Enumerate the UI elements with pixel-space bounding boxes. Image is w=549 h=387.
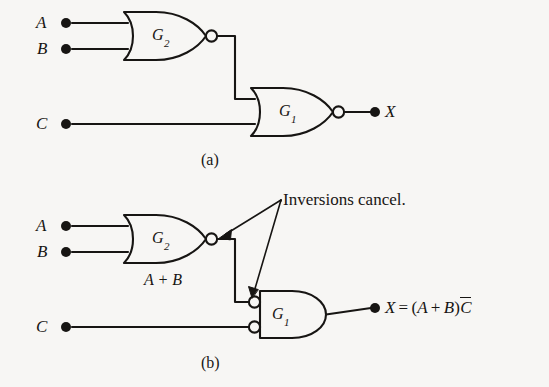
gate-label-g2-subscript-b: 2 <box>164 240 170 252</box>
wire-g2-to-g1-a <box>217 36 255 99</box>
input-label-c-circuit-b: C <box>36 318 47 335</box>
gate-g1-body-b <box>260 291 326 338</box>
output-expression-plus: + <box>428 298 444 317</box>
terminal-dot-a-input-b <box>61 44 71 54</box>
input-label-b-circuit-a: B <box>37 40 47 57</box>
circuit-b-group <box>61 215 380 338</box>
terminal-dot-a-output-x <box>370 107 380 117</box>
annotation-arrowhead-g2-bubble <box>220 230 232 240</box>
terminal-dot-a-input-a <box>61 18 71 28</box>
annotation-inversions-cancel: Inversions cancel. <box>283 191 406 208</box>
gate-label-g2-subscript-a: 2 <box>164 37 170 49</box>
circuit-drawing <box>0 0 549 387</box>
output-expression-term-b: B <box>444 298 455 317</box>
gate-label-g1-subscript-b: 1 <box>284 316 290 328</box>
input-label-b-circuit-b: B <box>37 243 47 260</box>
gate-label-g2-name-a: G <box>152 26 164 43</box>
gate-g2-output-bubble-b <box>206 233 217 244</box>
output-expression-circuit-b: X=(A+B)C <box>385 299 472 316</box>
input-label-a-circuit-b: A <box>36 217 46 234</box>
wire-g2-to-g1-b <box>217 239 249 302</box>
circuit-a-group <box>61 12 380 136</box>
output-label-x-circuit-a: X <box>385 103 395 120</box>
output-expression-equals: = <box>396 298 412 317</box>
gate-label-g1-name-b: G <box>272 305 284 322</box>
annotation-arrows-group <box>220 200 282 298</box>
wire-label-a-plus-b: A + B <box>144 272 182 288</box>
terminal-dot-b-input-a <box>61 221 71 231</box>
gate-label-g2-circuit-a: G2 <box>152 27 169 46</box>
caption-a: (a) <box>201 152 219 168</box>
terminal-dot-b-input-c <box>61 322 71 332</box>
output-expression-term-a: A <box>417 298 428 317</box>
input-label-c-circuit-a: C <box>36 115 47 132</box>
terminal-dot-b-input-b <box>61 247 71 257</box>
input-label-a-circuit-a: A <box>36 14 46 31</box>
output-expression-term-c-bar: C <box>460 299 472 316</box>
gate-g1-output-bubble-a <box>333 106 344 117</box>
gate-label-g2-name-b: G <box>152 229 164 246</box>
output-expression-x: X <box>385 298 396 317</box>
logic-circuit-figure: A B C G2 G1 X (a) A B C G2 G1 A + B Inve… <box>0 0 549 387</box>
gate-label-g1-name-a: G <box>279 102 291 119</box>
gate-g1-input-bubble-bottom-b <box>249 321 260 332</box>
gate-g1-input-bubble-top-b <box>249 296 260 307</box>
gate-label-g2-circuit-b: G2 <box>152 230 169 249</box>
gate-label-g1-circuit-a: G1 <box>279 103 296 122</box>
gate-label-g1-circuit-b: G1 <box>272 306 289 325</box>
caption-b: (b) <box>201 355 220 371</box>
gate-label-g1-subscript-a: 1 <box>291 113 297 125</box>
terminal-dot-a-input-c <box>61 119 71 129</box>
wire-g1-to-output-b <box>326 308 371 315</box>
terminal-dot-b-output-x <box>370 303 380 313</box>
gate-g2-output-bubble-a <box>206 30 217 41</box>
